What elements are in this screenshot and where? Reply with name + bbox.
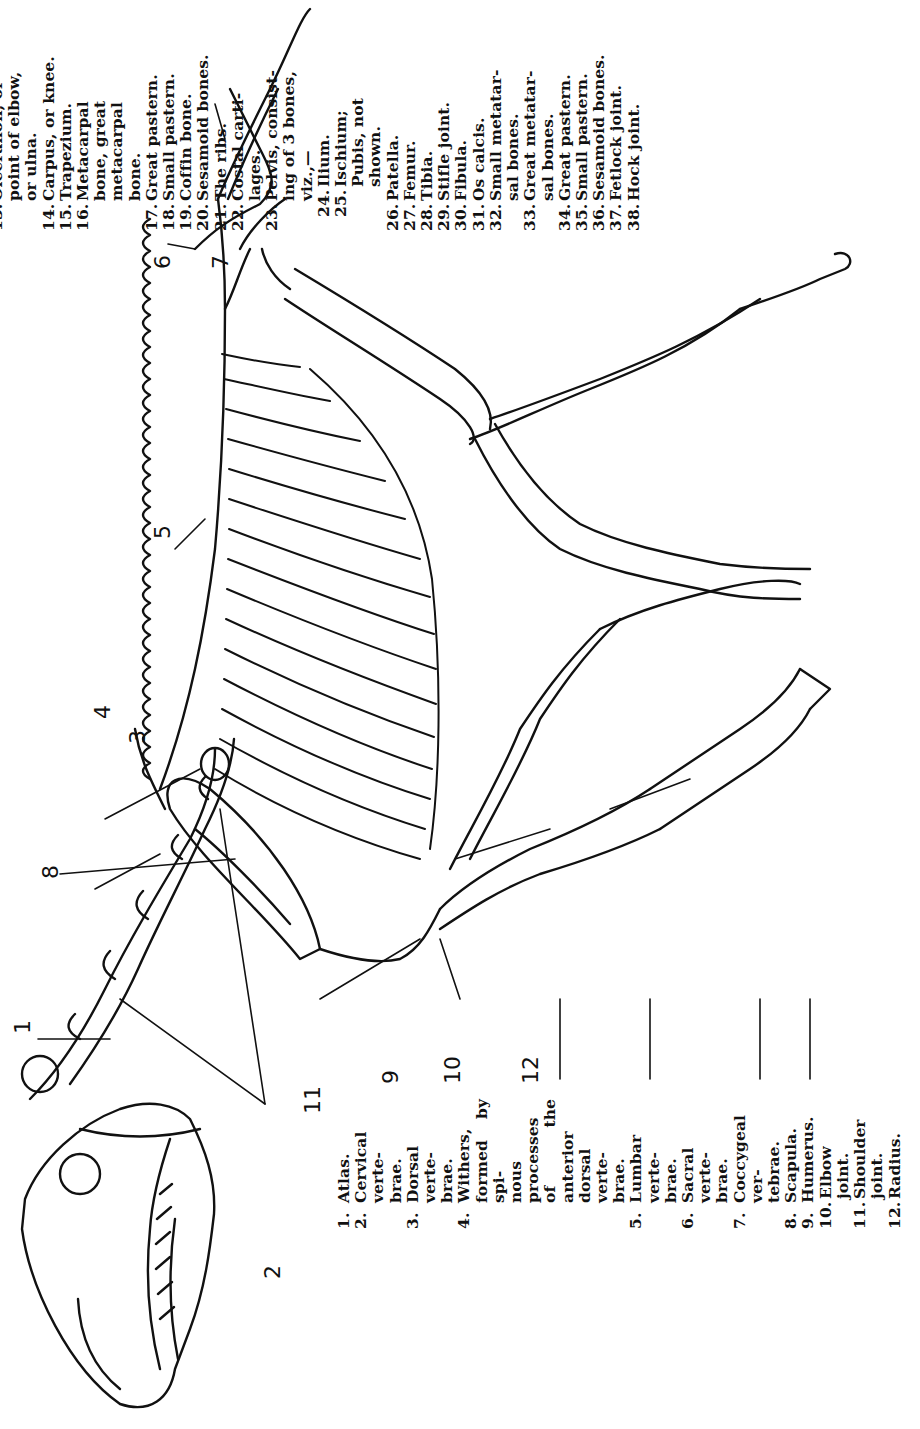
legend-item: 36.Sesamoid bones.: [590, 0, 607, 231]
legend-item: 26.Patella.: [384, 0, 401, 231]
legend-item: 28.Tibia.: [418, 0, 435, 231]
legend-item: 24.Ilium.: [315, 0, 332, 231]
legend-right-column: 13.Olecranon, orpoint of elbow,or ulna. …: [0, 0, 642, 231]
legend-item: 4.Withers,formed by spi-nous processesof…: [455, 1099, 627, 1229]
legend-item: 9.Humerus.: [799, 1099, 816, 1229]
legend-item: 38.Hock joint.: [625, 0, 642, 231]
callout-7: 7: [208, 255, 233, 269]
legend-item: 10.Elbow joint.: [817, 1099, 851, 1229]
callout-2: 2: [260, 1265, 285, 1279]
foreleg: [320, 581, 830, 961]
legend-item: 29.Stifle joint.: [435, 0, 452, 231]
legend-item: 25.Ischium;Pubis, notshown.: [332, 0, 384, 231]
legend-item: 8.Scapula.: [782, 1099, 799, 1229]
callout-4: 4: [90, 705, 115, 719]
legend-item: 1.Atlas.: [335, 1099, 352, 1229]
cervical-vertebrae: [22, 739, 234, 1099]
callout-8: 8: [38, 865, 63, 879]
legend-item: 12.Radius.: [886, 1099, 903, 1229]
callout-6: 6: [150, 255, 175, 269]
callout-10: 10: [440, 1056, 465, 1084]
callout-9: 9: [378, 1070, 403, 1084]
spine: [135, 199, 225, 809]
callout-12: 12: [518, 1056, 543, 1084]
legend-item: 23.Pelvis, consist-ing of 3 bones,viz.,—: [263, 0, 315, 231]
legend-item: 18.Small pastern.: [160, 0, 177, 231]
legend-item: 19.Coffin bone.: [177, 0, 194, 231]
legend-item: 16.Metacarpalbone, greatmetacarpalbone.: [74, 0, 143, 231]
scapula: [167, 779, 320, 959]
legend-left-column: 1.Atlas. 2.Cervical verte-brae. 3.Dorsal…: [335, 1099, 903, 1229]
legend-item: 17.Great pastern.: [143, 0, 160, 231]
legend-item: 35.Small pastern.: [573, 0, 590, 231]
legend-item: 13.Olecranon, orpoint of elbow,or ulna.: [0, 0, 40, 231]
legend-item: 31.Os calcis.: [470, 0, 487, 231]
legend-item: 15.Trapezium.: [57, 0, 74, 231]
callout-1: 1: [10, 1020, 35, 1034]
legend-item: 5.Lumbar verte-brae.: [627, 1099, 679, 1229]
legend-item: 7.Coccygeal ver-tebrae.: [731, 1099, 783, 1229]
legend-item: 22.Costal carti-lages.: [229, 0, 263, 231]
legend-item: 20.Sesamoid bones.: [194, 0, 211, 231]
legend-item: 11.Shoulder joint.: [851, 1099, 885, 1229]
legend-item: 34.Great pastern.: [556, 0, 573, 231]
legend-item: 27.Femur.: [401, 0, 418, 231]
callout-3: 3: [125, 730, 150, 744]
callout-lines: [38, 104, 810, 1104]
legend-item: 21.The ribs.: [212, 0, 229, 231]
callout-11: 11: [300, 1086, 325, 1114]
legend-item: 37.Fetlock joint.: [607, 0, 624, 231]
legend-item: 32.Small metatar-sal bones.: [487, 0, 521, 231]
legend-item: 3.Dorsal verte-brae.: [404, 1099, 456, 1229]
legend-item: 2.Cervical verte-brae.: [352, 1099, 404, 1229]
legend-item: 33.Great metatar-sal bones.: [521, 0, 555, 231]
callout-5: 5: [150, 525, 175, 539]
ribs: [215, 354, 439, 859]
skull: [22, 1104, 214, 1407]
book-page: 1 2 3 4 5 6 7 8 9 10 11 12 1.Atlas. 2.Ce…: [0, 0, 920, 1429]
legend-item: 30.Fibula.: [452, 0, 469, 231]
legend-item: 14.Carpus, or knee.: [40, 0, 57, 231]
hind-leg: [285, 253, 850, 599]
legend-item: 6.Sacral verte-brae.: [679, 1099, 731, 1229]
